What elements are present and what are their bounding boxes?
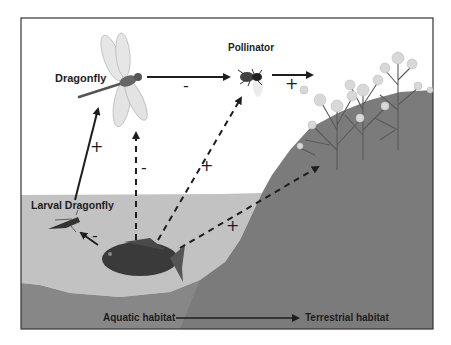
sign-larva-to-dragonfly: + [90, 139, 103, 155]
food-web-diagram: Dragonfly Pollinator Larval Dragonfly Aq… [0, 0, 451, 345]
sign-fish-to-dragonfly: - [141, 160, 147, 176]
sign-pollinator-to-plants: + [285, 76, 298, 92]
sign-fish-to-larva: - [92, 228, 98, 244]
dragonfly-label: Dragonfly [55, 72, 106, 84]
sign-dragonfly-to-pollinator: - [183, 78, 189, 94]
aquatic-habitat-label: Aquatic habitat [103, 312, 175, 323]
larval-dragonfly-label: Larval Dragonfly [31, 199, 114, 211]
sign-fish-to-plants: + [226, 218, 239, 234]
terrestrial-habitat-label: Terrestrial habitat [305, 312, 389, 323]
sign-fish-to-pollinator: + [200, 158, 213, 174]
pollinator-label: Pollinator [228, 42, 274, 53]
